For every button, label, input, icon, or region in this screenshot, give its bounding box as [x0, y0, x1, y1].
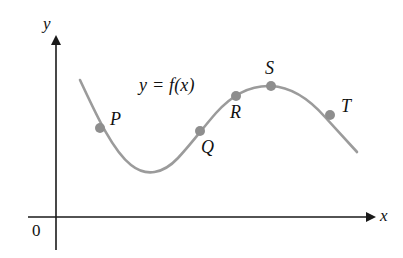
- y-axis-arrowhead: [51, 35, 61, 45]
- point-marker-p: [95, 123, 105, 133]
- point-marker-s: [266, 81, 276, 91]
- point-label-p: P: [110, 110, 121, 128]
- point-label-q: Q: [201, 138, 214, 156]
- origin-label: 0: [32, 222, 41, 239]
- x-axis-label: x: [380, 207, 388, 224]
- graph-canvas: [0, 0, 403, 258]
- point-marker-t: [325, 110, 335, 120]
- point-marker-r: [231, 91, 241, 101]
- equation-annotation: y = f(x): [139, 76, 195, 94]
- point-label-t: T: [341, 97, 351, 115]
- point-label-r: R: [230, 103, 241, 121]
- x-axis-arrowhead: [366, 212, 376, 222]
- y-axis-label: y: [43, 15, 51, 32]
- point-label-s: S: [265, 59, 274, 77]
- function-graph-figure: y x 0 y = f(x) P Q R S T: [0, 0, 403, 258]
- function-curve: [80, 80, 357, 172]
- point-marker-q: [195, 126, 205, 136]
